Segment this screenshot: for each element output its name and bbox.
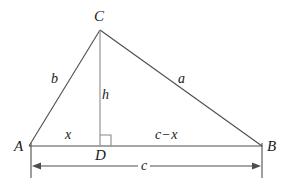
arrowhead-right-icon [252,163,261,170]
arrowhead-left-icon [32,163,41,170]
segment-a-line [100,30,262,146]
segment-label-a: a [178,72,185,86]
dimension-label-c: c [138,159,150,173]
c-minus-x-operator: − [161,127,171,142]
geometry-figure: C A B D b a h x c−x c [0,0,287,184]
vertex-label-A: A [14,139,23,154]
vertex-label-D: D [95,148,106,163]
c-minus-x-second-term: x [171,127,177,142]
segment-label-c-minus-x: c−x [155,128,177,142]
segment-label-h: h [102,88,109,102]
vertex-label-C: C [94,9,104,24]
right-angle-icon [100,135,111,146]
vertex-label-B: B [267,139,276,154]
segment-label-b: b [51,72,58,86]
triangle-diagram-svg [0,0,287,184]
segment-label-x: x [65,128,71,142]
